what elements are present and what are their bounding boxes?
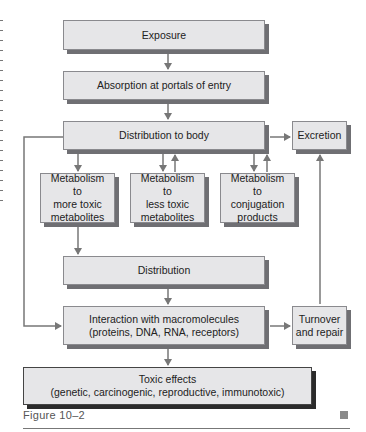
node-label-line: to xyxy=(163,185,172,198)
figure-caption: Figure 10–2 xyxy=(23,409,85,421)
node-label-line: Metabolism xyxy=(231,172,285,185)
node-label: Distribution xyxy=(138,264,191,277)
node-label-line: (genetic, carcinogenic, reproductive, im… xyxy=(50,386,284,399)
node-label-line: less toxic xyxy=(146,198,189,211)
node-label-line: to xyxy=(73,185,82,198)
node-exposure: Exposure xyxy=(63,20,265,50)
node-label-line: Toxic effects xyxy=(139,373,197,386)
caption-divider xyxy=(23,428,350,429)
node-label-line: metabolites xyxy=(141,211,195,224)
caption-end-square-icon xyxy=(340,411,348,419)
node-label-line: (proteins, DNA, RNA, receptors) xyxy=(89,326,239,339)
node-label: Exposure xyxy=(142,29,186,42)
node-toxic-effects: Toxic effects (genetic, carcinogenic, re… xyxy=(23,367,312,405)
node-label: Absorption at portals of entry xyxy=(97,79,231,92)
node-label-line: Metabolism xyxy=(51,172,105,185)
node-distribution: Distribution xyxy=(63,256,265,285)
node-turnover-repair: Turnover and repair xyxy=(292,306,347,345)
node-label-line: and repair xyxy=(296,326,343,339)
node-distribution-to-body: Distribution to body xyxy=(63,121,265,150)
node-interaction-macromolecules: Interaction with macromolecules (protein… xyxy=(63,306,265,345)
node-label-line: Turnover xyxy=(299,313,341,326)
node-label-line: Interaction with macromolecules xyxy=(89,313,239,326)
node-metabolism-conjugation: Metabolism to conjugation products xyxy=(220,173,295,223)
node-label-line: products xyxy=(237,211,277,224)
node-label-line: conjugation xyxy=(231,198,285,211)
node-excretion: Excretion xyxy=(292,121,347,150)
node-label-line: Metabolism xyxy=(141,172,195,185)
node-absorption: Absorption at portals of entry xyxy=(63,71,265,100)
node-label: Distribution to body xyxy=(119,129,209,142)
node-label-line: more toxic xyxy=(53,198,101,211)
node-label-line: to xyxy=(253,185,262,198)
node-label: Excretion xyxy=(298,129,342,142)
node-label-line: metabolites xyxy=(51,211,105,224)
node-metabolism-more-toxic: Metabolism to more toxic metabolites xyxy=(40,173,115,223)
node-metabolism-less-toxic: Metabolism to less toxic metabolites xyxy=(130,173,205,223)
